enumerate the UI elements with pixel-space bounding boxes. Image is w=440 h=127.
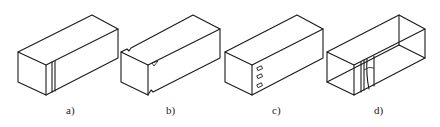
slot-1 (257, 66, 263, 71)
figure-panels: a) b) c) d) (0, 0, 440, 127)
box-b (121, 15, 220, 95)
panel-label-a: a) (66, 103, 75, 117)
panel-label-b: b) (166, 103, 175, 117)
box-d (327, 15, 425, 95)
slot-3 (257, 83, 263, 88)
curved-seam (367, 59, 369, 89)
panel-label-d: d) (374, 103, 383, 117)
box-a (18, 15, 118, 95)
slot-2 (257, 74, 263, 79)
panel-label-c: c) (272, 103, 281, 117)
box-c (225, 15, 323, 95)
triangle-marker-icon (152, 61, 158, 66)
